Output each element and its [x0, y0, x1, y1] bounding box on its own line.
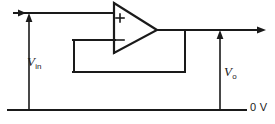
vo-subscript: o: [232, 72, 236, 81]
vo-label: Vo: [224, 65, 236, 78]
ground-rail-label: 0 V: [250, 101, 267, 113]
opamp-triangle-icon: [114, 3, 157, 53]
vo-symbol: V: [224, 64, 232, 79]
vin-subscript: in: [35, 62, 41, 71]
vo-up-arrow-icon: [217, 30, 224, 39]
vin-symbol: V: [27, 54, 35, 69]
vin-up-arrow-icon: [26, 13, 33, 22]
vo-measure-group: [217, 30, 224, 110]
opamp-symbol-group: [114, 3, 157, 53]
vin-label: Vin: [27, 55, 41, 68]
circuit-schematic-svg: [0, 0, 275, 124]
output-wire-group: [156, 26, 266, 33]
opamp-voltage-follower-figure: Vin Vo 0 V: [0, 0, 275, 124]
input-direction-arrow-icon: [18, 9, 26, 16]
output-direction-arrow-icon: [257, 26, 266, 33]
